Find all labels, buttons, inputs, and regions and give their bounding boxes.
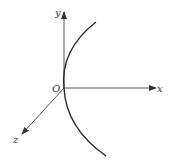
z-axis-label: z [12,134,19,145]
z-axis [22,88,64,134]
x-axis-label: x [157,83,163,94]
coordinate-diagram: y x z O [0,0,174,168]
y-axis-label: y [54,7,61,18]
curve [64,22,106,156]
origin-label: O [52,83,60,94]
